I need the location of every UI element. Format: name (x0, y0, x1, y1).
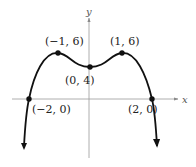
label-neg2-0: (−2, 0) (32, 103, 71, 116)
label-neg1-6: (−1, 6) (45, 35, 84, 48)
x-axis-label: x (182, 94, 188, 105)
point-0-4 (87, 64, 92, 69)
y-axis-label: y (85, 6, 92, 17)
label-2-0: (2, 0) (128, 103, 158, 116)
label-0-4: (0, 4) (65, 74, 95, 87)
point-2-0 (149, 96, 154, 101)
label-1-6: (1, 6) (110, 35, 140, 48)
point-1-6 (119, 50, 124, 55)
point-neg2-0 (26, 96, 31, 101)
point-neg1-6 (55, 50, 60, 55)
left-end-arrow-icon (21, 143, 27, 150)
function-graph: x y (−2, 0) (−1, 6) (0, 4) (1, 6) (2, 0) (0, 0, 196, 167)
